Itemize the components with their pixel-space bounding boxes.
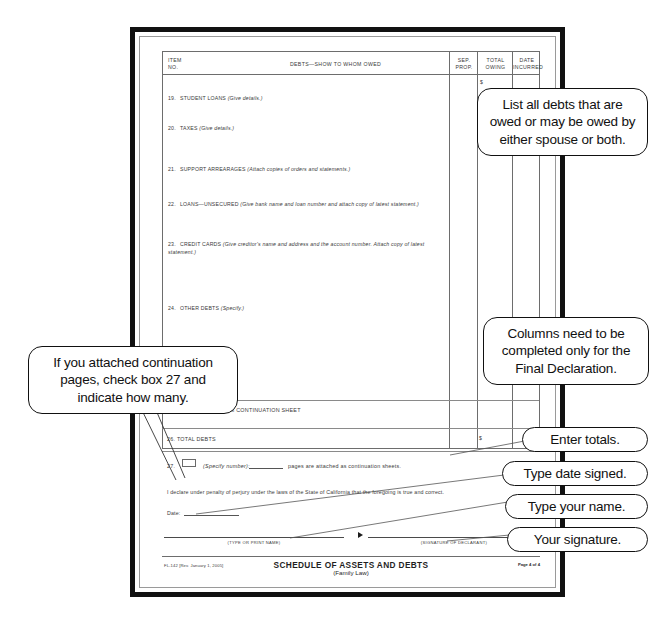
callout-columns-final-declaration: Columns need to be completed only for th… bbox=[483, 317, 649, 385]
callout-list-all-debts: List all debts that are owed or may be o… bbox=[477, 88, 648, 156]
callout-continuation-pages: If you attached continuation pages, chec… bbox=[28, 346, 238, 414]
callout-type-date-signed-text: Type date signed. bbox=[511, 465, 639, 483]
callout-your-signature: Your signature. bbox=[507, 527, 648, 552]
callout-enter-totals-text: Enter totals. bbox=[531, 431, 639, 449]
callout-list-all-debts-text: List all debts that are owed or may be o… bbox=[486, 96, 639, 149]
callout-your-signature-text: Your signature. bbox=[516, 531, 639, 549]
callout-type-your-name: Type your name. bbox=[505, 494, 648, 519]
callout-type-your-name-text: Type your name. bbox=[514, 498, 639, 516]
callout-continuation-pages-text: If you attached continuation pages, chec… bbox=[37, 354, 229, 407]
callout-enter-totals: Enter totals. bbox=[522, 427, 648, 452]
callout-columns-final-declaration-text: Columns need to be completed only for th… bbox=[492, 325, 640, 378]
callout-type-date-signed: Type date signed. bbox=[502, 461, 648, 486]
